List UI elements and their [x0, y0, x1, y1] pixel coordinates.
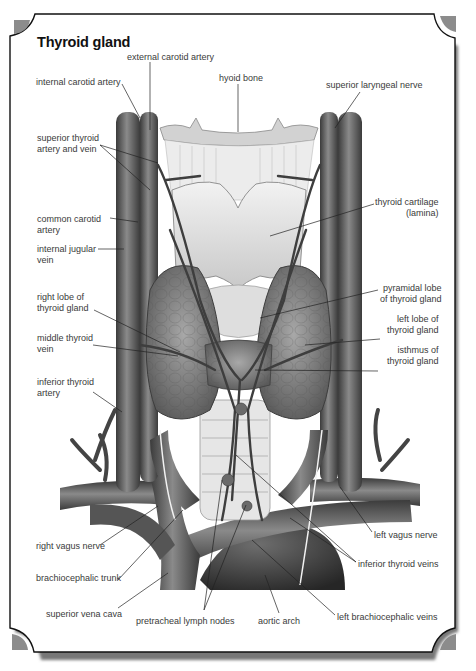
label-line: isthmus of: [387, 345, 439, 356]
label-line: artery and vein: [37, 144, 99, 155]
label-line: artery: [37, 225, 101, 236]
label-line: superior thyroid: [37, 133, 99, 144]
label-middle-thyroid-vein: middle thyroid vein: [37, 333, 93, 355]
label-internal-jugular-vein: internal jugular vein: [37, 244, 96, 266]
label-brachiocephalic-trunk: brachiocephalic trunk: [36, 573, 121, 584]
label-left-vagus-nerve: left vagus nerve: [374, 530, 438, 541]
label-line: of thyroid gland: [380, 294, 442, 305]
diagram-title: Thyroid gland: [37, 34, 130, 50]
label-line: thyroid cartilage: [375, 197, 439, 208]
label-line: thyroid gland: [387, 325, 439, 336]
label-line: middle thyroid: [37, 333, 93, 344]
label-inferior-thyroid-veins: inferior thyroid veins: [358, 559, 439, 570]
label-line: left lobe of: [387, 314, 439, 325]
label-right-lobe: right lobe of thyroid gland: [37, 292, 89, 314]
label-aortic-arch: aortic arch: [258, 616, 300, 627]
label-line: vein: [37, 344, 93, 355]
label-line: artery: [37, 388, 94, 399]
label-left-brachiocephalic-veins: left brachiocephalic veins: [337, 612, 438, 623]
label-line: internal jugular: [37, 244, 96, 255]
label-line: vein: [37, 255, 96, 266]
label-inferior-thyroid-artery: inferior thyroid artery: [37, 377, 94, 399]
label-left-lobe: left lobe of thyroid gland: [387, 314, 439, 336]
label-line: thyroid gland: [37, 303, 89, 314]
label-line: right lobe of: [37, 292, 89, 303]
label-isthmus: isthmus of thyroid gland: [387, 345, 439, 367]
label-right-vagus-nerve: right vagus nerve: [36, 541, 105, 552]
label-pretracheal-lymph-nodes: pretracheal lymph nodes: [136, 616, 235, 627]
label-hyoid-bone: hyoid bone: [219, 73, 263, 84]
label-thyroid-cartilage-lamina: thyroid cartilage (lamina): [375, 197, 439, 219]
label-line: (lamina): [375, 208, 439, 219]
label-internal-carotid-artery: internal carotid artery: [36, 77, 121, 88]
label-superior-vena-cava: superior vena cava: [46, 609, 122, 620]
label-superior-laryngeal-nerve: superior laryngeal nerve: [326, 80, 423, 91]
label-line: pyramidal lobe: [380, 283, 442, 294]
label-external-carotid-artery: external carotid artery: [127, 52, 214, 63]
label-common-carotid-artery: common carotid artery: [37, 214, 101, 236]
label-line: thyroid gland: [387, 356, 439, 367]
hyoid-bone-shape: [160, 118, 318, 146]
label-line: inferior thyroid: [37, 377, 94, 388]
label-pyramidal-lobe: pyramidal lobe of thyroid gland: [380, 283, 442, 305]
label-superior-thyroid-artery-and-vein: superior thyroid artery and vein: [37, 133, 99, 155]
label-line: common carotid: [37, 214, 101, 225]
